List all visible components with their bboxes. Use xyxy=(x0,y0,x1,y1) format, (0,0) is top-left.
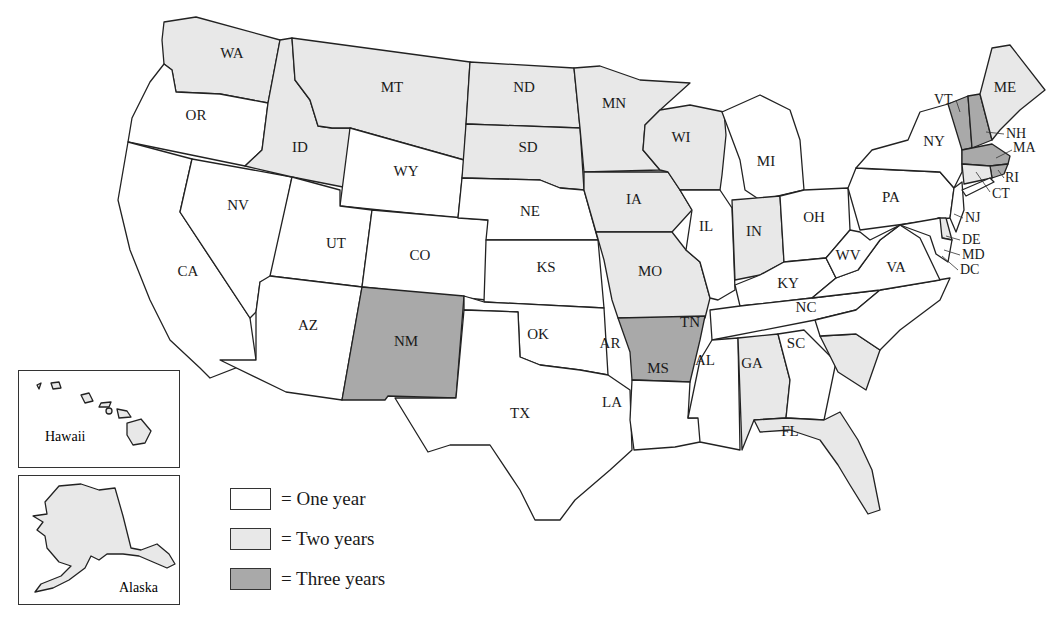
label-tn: TN xyxy=(680,314,700,330)
label-nm: NM xyxy=(394,333,418,349)
label-ny: NY xyxy=(923,133,945,149)
hawaii-label: Hawaii xyxy=(45,429,85,445)
state-mi[interactable] xyxy=(722,95,804,200)
label-dc: DC xyxy=(960,262,979,277)
label-nv: NV xyxy=(227,197,249,213)
label-fl: FL xyxy=(781,423,799,439)
label-ok: OK xyxy=(527,326,549,342)
swatch-dark-gray xyxy=(230,568,271,590)
label-va: VA xyxy=(886,259,906,275)
label-me: ME xyxy=(994,79,1017,95)
label-nj: NJ xyxy=(965,210,981,225)
label-ma: MA xyxy=(1013,140,1036,155)
label-nd: ND xyxy=(513,79,535,95)
legend-item-two-years: = Two years xyxy=(230,527,385,551)
label-ks: KS xyxy=(536,259,555,275)
label-mt: MT xyxy=(381,79,404,95)
label-ms: MS xyxy=(647,360,669,376)
label-id: ID xyxy=(292,139,308,155)
label-sc: SC xyxy=(787,335,805,351)
legend-label: = Two years xyxy=(281,528,374,550)
alaska-label: Alaska xyxy=(119,580,158,596)
label-md: MD xyxy=(962,247,985,262)
label-ri: RI xyxy=(1005,170,1019,185)
label-ne: NE xyxy=(520,203,540,219)
label-il: IL xyxy=(699,218,713,234)
label-nc: NC xyxy=(796,299,817,315)
legend: = One year = Two years = Three years xyxy=(230,487,385,607)
label-ia: IA xyxy=(626,191,642,207)
legend-label: = One year xyxy=(281,488,366,510)
label-mn: MN xyxy=(602,95,626,111)
label-co: CO xyxy=(410,247,431,263)
label-ca: CA xyxy=(178,263,199,279)
hawaii-inset: Hawaii xyxy=(18,370,180,468)
label-wy: WY xyxy=(394,163,419,179)
label-vt: VT xyxy=(934,92,953,107)
swatch-white xyxy=(230,488,271,510)
label-al: AL xyxy=(695,352,715,368)
label-mo: MO xyxy=(638,263,662,279)
swatch-light-gray xyxy=(230,528,271,550)
label-wa: WA xyxy=(220,45,243,61)
label-de: DE xyxy=(962,232,981,247)
label-pa: PA xyxy=(882,189,900,205)
label-oh: OH xyxy=(803,209,825,225)
label-ga: GA xyxy=(741,355,763,371)
legend-item-one-year: = One year xyxy=(230,487,385,511)
legend-label: = Three years xyxy=(281,568,385,590)
label-nh: NH xyxy=(1006,126,1026,141)
label-ct: CT xyxy=(992,186,1010,201)
label-or: OR xyxy=(186,107,207,123)
label-ar: AR xyxy=(600,335,621,351)
hawaii-map[interactable] xyxy=(19,371,179,467)
label-sd: SD xyxy=(518,139,537,155)
state-fl[interactable] xyxy=(754,412,880,514)
legend-item-three-years: = Three years xyxy=(230,567,385,591)
label-la: LA xyxy=(602,394,622,410)
label-az: AZ xyxy=(298,317,318,333)
label-ky: KY xyxy=(777,275,799,291)
label-tx: TX xyxy=(510,405,530,421)
alaska-inset: Alaska xyxy=(18,475,180,605)
label-wi: WI xyxy=(671,129,690,145)
label-wv: WV xyxy=(836,247,861,263)
label-in: IN xyxy=(746,223,762,239)
label-ut: UT xyxy=(326,235,346,251)
label-mi: MI xyxy=(757,153,775,169)
state-nd[interactable] xyxy=(466,62,580,128)
